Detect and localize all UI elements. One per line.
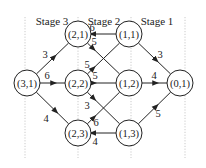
edge-3-1-to-2-2: 6	[40, 70, 65, 83]
node-label: (1,3)	[119, 128, 140, 140]
stage-divider-lines	[25, 17, 185, 158]
stage-network-diagram: Stage 3Stage 2Stage 1 3646555364345 (3,1…	[0, 0, 206, 168]
edge-weight: 3	[84, 100, 89, 111]
stage-label: Stage 1	[141, 15, 174, 27]
edge-weight: 5	[84, 59, 89, 70]
node-2-2: (2,2)	[65, 70, 91, 96]
node-label: (0,1)	[170, 78, 191, 90]
node-label: (2,1)	[68, 29, 89, 41]
edge-weight: 5	[92, 70, 97, 81]
node-1-3: (1,3)	[116, 120, 142, 146]
edge-1-3-to-0-1: 5	[138, 92, 170, 124]
edges: 3646555364345	[36, 22, 170, 147]
node-0-1: (0,1)	[167, 70, 193, 96]
node-label: (2,2)	[68, 78, 89, 90]
edge-weight: 3	[42, 49, 47, 60]
edge-2-2-to-1-2: 5	[91, 70, 116, 83]
node-3-1: (3,1)	[14, 70, 40, 96]
edge-1-3-to-2-3: 4	[91, 133, 116, 147]
edge-3-1-to-2-3: 4	[36, 92, 68, 124]
edge-2-1-to-1-2: 5	[87, 36, 119, 74]
edge-weight: 4	[92, 136, 98, 147]
edge-weight: 6	[93, 117, 98, 128]
edge-weight: 3	[157, 49, 162, 60]
node-1-1: (1,1)	[116, 21, 142, 47]
node-label: (1,1)	[119, 29, 140, 41]
node-label: (2,3)	[68, 128, 89, 140]
edge-weight: 4	[43, 113, 49, 124]
edge-1-2-to-0-1: 4	[142, 70, 167, 83]
edge-weight: 5	[155, 108, 160, 119]
edge-weight: 4	[151, 70, 157, 81]
edge-weight: 5	[91, 36, 96, 47]
edge-weight: 6	[44, 70, 49, 81]
node-2-1: (2,1)	[65, 21, 91, 47]
node-1-2: (1,2)	[116, 70, 142, 96]
edge-3-1-to-2-1: 3	[36, 43, 68, 74]
node-label: (3,1)	[17, 78, 38, 90]
stage-label: Stage 3	[36, 15, 69, 27]
node-label: (1,2)	[119, 78, 140, 90]
node-2-3: (2,3)	[65, 120, 91, 146]
stage-labels: Stage 3Stage 2Stage 1	[36, 15, 174, 27]
